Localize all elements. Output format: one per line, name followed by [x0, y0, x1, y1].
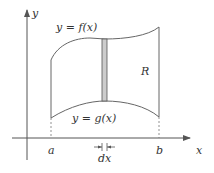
diagram-canvas: y x y = f(x) y = g(x) R a b dx [0, 0, 214, 173]
bottom-curve-label: y = g(x) [71, 112, 116, 125]
region-label: R [140, 65, 149, 78]
right-bound-label: b [156, 144, 163, 157]
dx-label: dx [98, 152, 112, 165]
area-strip [102, 39, 107, 101]
y-axis-label: y [31, 7, 39, 20]
region-diagram: y x y = f(x) y = g(x) R a b dx [0, 0, 214, 173]
top-curve-label: y = f(x) [55, 21, 97, 34]
x-axis-label: x [196, 144, 203, 157]
left-bound-label: a [48, 144, 55, 157]
